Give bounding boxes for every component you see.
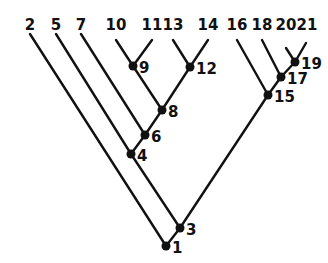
node-9: [129, 62, 138, 71]
leaf-label-18: 18: [252, 16, 273, 34]
edge-12-13: [173, 40, 190, 67]
node-label-3: 3: [186, 221, 196, 239]
node-label-9: 9: [139, 59, 149, 77]
node-label-4: 4: [137, 147, 147, 165]
leaf-label-20: 20: [276, 16, 297, 34]
leaf-label-13: 13: [163, 16, 184, 34]
leaf-label-10: 10: [106, 16, 127, 34]
node-3: [176, 224, 185, 233]
node-label-15: 15: [274, 88, 295, 106]
tree-diagram: 2 5 7 10 11 13 14 16 18 20 21 1 3 4 6 8 …: [0, 0, 328, 263]
leaf-label-21: 21: [297, 16, 318, 34]
leaf-label-2: 2: [25, 16, 35, 34]
edge-15-16: [237, 40, 268, 95]
leaf-labels: 2 5 7 10 11 13 14 16 18 20 21: [25, 16, 318, 34]
node-8: [158, 106, 167, 115]
node-label-19: 19: [301, 55, 322, 73]
leaf-label-11: 11: [142, 16, 163, 34]
node-15: [264, 91, 273, 100]
node-label-12: 12: [196, 60, 217, 78]
node-19: [291, 58, 300, 67]
node-12: [186, 63, 195, 72]
edge-6-7: [81, 34, 145, 135]
leaf-label-14: 14: [198, 16, 219, 34]
internal-labels: 1 3 4 6 8 9 12 15 17 19: [137, 55, 322, 257]
node-label-8: 8: [168, 103, 178, 121]
leaf-label-5: 5: [51, 16, 61, 34]
node-6: [141, 131, 150, 140]
node-label-1: 1: [172, 239, 182, 257]
node-17: [277, 73, 286, 82]
node-1: [162, 242, 171, 251]
edge-9-10: [116, 40, 133, 66]
leaf-label-16: 16: [227, 16, 248, 34]
edge-17-18: [262, 40, 281, 77]
edge-3-15: [180, 95, 268, 228]
node-4: [127, 150, 136, 159]
leaf-label-7: 7: [76, 16, 86, 34]
node-label-6: 6: [151, 128, 161, 146]
edges: [30, 34, 306, 246]
edge-3-4: [131, 154, 180, 228]
